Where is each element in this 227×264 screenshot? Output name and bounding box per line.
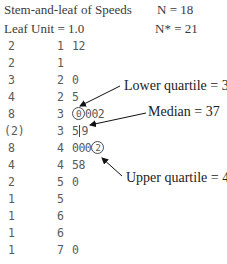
leaf-values: 0002 [72, 140, 104, 156]
stem-value: 3 [57, 123, 64, 139]
table-row: 1 6 [0, 225, 227, 241]
leaf-values: 5 [72, 89, 78, 105]
leaf-values: 0002 [72, 106, 104, 122]
leaf-rest: 002 [85, 107, 104, 121]
table-row: 1 6 [0, 208, 227, 224]
leaf-values: 0 [72, 242, 78, 258]
stem-value: 6 [57, 225, 64, 241]
stem-value: 6 [57, 208, 64, 224]
stem-value: 4 [57, 140, 64, 156]
depth-value: 1 [8, 242, 38, 258]
table-row: 8 4 0002 [0, 140, 227, 156]
leaf-after-median: 9 [81, 124, 87, 138]
table-row: 1 5 [0, 191, 227, 207]
plot-title: Stem-and-leaf of Speeds [4, 2, 132, 18]
lower-quartile-label: Lower quartile = 30 [124, 78, 227, 94]
depth-value: 1 [8, 191, 38, 207]
stem-value: 4 [57, 157, 64, 173]
stem-value: 2 [57, 72, 64, 88]
stem-value: 2 [57, 89, 64, 105]
stem-value: 1 [57, 38, 64, 54]
stem-value: 7 [57, 242, 64, 258]
leaf-plain: 000 [72, 141, 91, 155]
leaf-unit: Leaf Unit = 1.0 [4, 21, 84, 37]
table-row: (2) 3 59 [0, 123, 227, 139]
depth-value: (2) [4, 123, 34, 139]
n-missing-count: N* = 21 [155, 21, 198, 37]
depth-value: 3 [8, 72, 38, 88]
depth-value: 1 [8, 208, 38, 224]
depth-value: 1 [8, 225, 38, 241]
upper-quartile-label: Upper quartile = 42 [126, 170, 227, 186]
leaf-before-median: 5 [72, 124, 78, 138]
depth-value: 2 [8, 55, 38, 71]
lower-quartile-marker: 0 [72, 107, 85, 120]
depth-value: 8 [8, 140, 38, 156]
n-count: N = 18 [157, 2, 193, 18]
upper-quartile-marker: 2 [91, 141, 104, 154]
leaf-values: 12 [72, 38, 85, 54]
depth-value: 2 [8, 174, 38, 190]
table-row: 2 1 12 [0, 38, 227, 54]
stem-value: 5 [57, 174, 64, 190]
stem-value: 3 [57, 106, 64, 122]
leaf-values: 0 [72, 174, 78, 190]
depth-value: 2 [8, 38, 38, 54]
table-row: 2 1 [0, 55, 227, 71]
depth-value: 8 [8, 106, 38, 122]
stem-value: 1 [57, 55, 64, 71]
stem-value: 5 [57, 191, 64, 207]
depth-value: 4 [8, 157, 38, 173]
depth-value: 4 [8, 89, 38, 105]
table-row: 1 7 0 [0, 242, 227, 258]
median-label: Median = 37 [148, 104, 220, 120]
leaf-values: 0 [72, 72, 78, 88]
leaf-values: 59 [72, 123, 88, 139]
leaf-values: 58 [72, 157, 85, 173]
